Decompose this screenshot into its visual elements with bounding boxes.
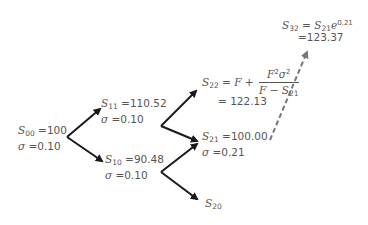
exponent: 2 xyxy=(286,68,290,76)
node-s20: S20 xyxy=(205,197,222,213)
plus-sign: + xyxy=(242,76,257,88)
arrow-s00-to-s10 xyxy=(67,137,102,161)
fraction-numerator: F2σ2 xyxy=(259,66,299,83)
equals-sign: = xyxy=(299,19,314,31)
node-s22-value: = 122.13 xyxy=(218,95,267,108)
s-subscript: 10 xyxy=(112,158,122,167)
s-subscript: 22 xyxy=(209,81,219,90)
s32-price: =123.37 xyxy=(298,31,344,43)
s11-price: =110.52 xyxy=(118,97,167,109)
node-s11: S11 =110.52 σ =0.10 xyxy=(101,97,167,126)
s21-price: =100.00 xyxy=(219,130,268,142)
s-subscript: 00 xyxy=(25,129,35,138)
node-s10: S10 =90.48 σ =0.10 xyxy=(105,153,164,182)
s10-sigma-value: =0.10 xyxy=(112,169,148,181)
s-subscript: 20 xyxy=(212,202,222,211)
s-subscript: 21 xyxy=(209,135,219,144)
s-subscript: 11 xyxy=(108,102,118,111)
s10-price: =90.48 xyxy=(122,153,164,165)
node-s21-sigma: σ =0.21 xyxy=(202,146,268,159)
sigma-symbol: σ xyxy=(279,68,286,80)
arrow-s10-to-s20 xyxy=(161,172,197,199)
s22-price: = 122.13 xyxy=(218,95,267,107)
node-s00-sigma: σ =0.10 xyxy=(18,140,67,153)
node-s11-value: S11 =110.52 xyxy=(101,97,167,113)
node-s32-value: =123.37 xyxy=(298,31,344,44)
node-s10-value: S10 =90.48 xyxy=(105,153,164,169)
arrow-s11-to-s21 xyxy=(161,126,197,141)
forward-symbol: F xyxy=(234,76,241,88)
s21-sigma-value: =0.21 xyxy=(209,146,245,158)
s00-price: =100 xyxy=(35,124,67,136)
node-s00: S00 =100 σ =0.10 xyxy=(18,124,67,153)
node-s21-value: S21 =100.00 xyxy=(202,130,268,146)
s00-sigma-value: =0.10 xyxy=(25,140,61,152)
node-s00-value: S00 =100 xyxy=(18,124,67,140)
equals-sign: = xyxy=(219,76,234,88)
minus-sign: − xyxy=(266,84,281,96)
node-s21: S21 =100.00 σ =0.21 xyxy=(202,130,268,159)
arrow-s10-to-s21 xyxy=(161,144,197,172)
arrow-s00-to-s11 xyxy=(67,109,100,137)
node-s10-sigma: σ =0.10 xyxy=(105,169,164,182)
s-subscript: 21 xyxy=(289,89,299,98)
s-symbol: S xyxy=(282,84,289,96)
s11-sigma-value: =0.10 xyxy=(108,113,144,125)
node-s11-sigma: σ =0.10 xyxy=(101,113,167,126)
exponent: 0.21 xyxy=(337,19,353,27)
